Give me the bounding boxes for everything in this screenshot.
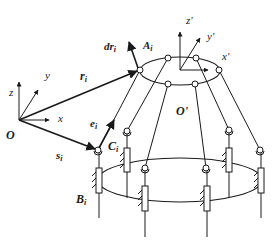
mechanism-diagram: z y x O ri dri Ai ei si Ci Bi O' z' y' x… xyxy=(0,0,275,244)
label-O-prime: O' xyxy=(176,104,189,118)
label-B: Bi xyxy=(75,192,87,207)
slider-C xyxy=(120,134,130,198)
label-x: x xyxy=(57,112,63,124)
vectors xyxy=(19,42,138,149)
vector-s xyxy=(19,120,95,149)
label-C: Ci xyxy=(108,139,119,154)
slider-right xyxy=(254,153,264,218)
platform-frame xyxy=(180,32,208,70)
label-s: si xyxy=(55,149,63,163)
label-e: ei xyxy=(90,117,98,131)
label-z-prime: z' xyxy=(185,14,193,26)
vector-dr xyxy=(129,42,138,68)
lower-joints xyxy=(94,127,264,173)
base-ring xyxy=(98,158,262,202)
label-dr: dri xyxy=(104,40,117,54)
label-x-prime: x' xyxy=(221,50,230,62)
label-A: Ai xyxy=(142,39,153,53)
diagram-svg: z y x O ri dri Ai ei si Ci Bi O' z' y' x… xyxy=(0,0,275,244)
slider-front-left xyxy=(138,171,148,237)
slider-B xyxy=(92,153,102,218)
label-r: ri xyxy=(80,69,88,84)
slider-front-right xyxy=(200,171,210,237)
label-y: y xyxy=(44,69,50,81)
label-O: O xyxy=(6,128,15,142)
slider-back-right xyxy=(222,133,232,198)
platform-y-axis xyxy=(180,38,200,70)
label-z: z xyxy=(8,86,14,98)
vector-r xyxy=(19,71,137,120)
label-y-prime: y' xyxy=(206,30,215,42)
